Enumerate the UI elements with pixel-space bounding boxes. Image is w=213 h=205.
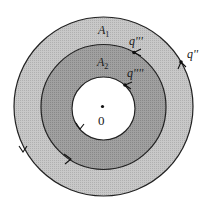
point-label-q3: q''' <box>129 34 143 48</box>
point-label-q4: q'''' <box>127 66 144 80</box>
origin-label: 0 <box>98 113 105 128</box>
origin-point <box>101 105 104 108</box>
annulus-diagram: 0 A1 A2 q'' q''' q'''' <box>0 0 213 205</box>
point-label-q2: q'' <box>187 47 199 61</box>
